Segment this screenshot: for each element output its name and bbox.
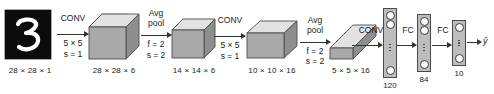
fc2-label: FC [433,26,453,36]
fc1-arrow [397,41,416,50]
conv1-label: CONV [56,14,90,24]
vol-28x28x6-dim-label: 28 × 28 × 6 [84,66,144,75]
fc-84-units-label: 84 [412,75,436,84]
fc-84-node [420,26,429,35]
conv3-arrow [352,41,382,50]
fc-10-layer [452,20,466,66]
vol-14x14x6-dim-label: 14 × 14 × 6 [164,66,224,75]
fc-10-ellipsis-icon [458,32,459,54]
fc-120-ellipsis-icon [389,29,390,66]
output-arrow [467,38,481,47]
conv2-param-filter: 5 × 5 [213,41,247,51]
fc-84-ellipsis-icon [423,35,424,60]
vol-10x10x16 [246,20,298,60]
vol-28x28x6-top-outline [88,13,140,61]
fc-84-node [420,60,429,69]
fc-120-units-label: 120 [378,81,402,90]
fc-120-layer [383,8,397,78]
fc-120-node [386,66,395,75]
fc-84-layer [417,14,431,72]
fc-84-node [420,17,429,26]
fc-10-units-label: 10 [447,69,471,78]
pool1-param-s: s = 2 [140,51,172,61]
conv1-param-filter: 5 × 5 [56,39,90,49]
vol-28x28x6 [88,13,140,61]
pool1-param-f: f = 2 [140,40,172,50]
vol-10x10x16-dim-label: 10 × 10 × 16 [240,66,304,75]
fc-120-node [386,11,395,20]
input-image [5,10,51,59]
pool1-label-line2: pool [140,19,172,29]
digit-three-glyph [11,16,45,54]
input-dim-label: 28 × 28 × 1 [4,66,56,75]
fc-10-node [455,23,464,32]
fc-10-node [455,54,464,63]
conv1-param-stride: s = 1 [56,50,90,60]
fc-120-node [386,20,395,29]
vol-5x5x16-dim-label: 5 × 5 × 16 [320,66,382,75]
conv2-param-stride: s = 1 [213,52,247,62]
output-label: ŷ [483,36,488,46]
conv2-label: CONV [213,16,247,26]
fc1-label: FC [398,26,418,36]
pool2-label-line2: pool [299,26,331,36]
conv3-label: CONV [356,26,386,36]
cnn-architecture-diagram: 28 × 28 × 1 CONV 5 × 5 s = 1 28 × 28 × 6… [0,0,494,94]
vol-14x14x6 [171,18,216,60]
fc2-arrow [432,41,451,50]
